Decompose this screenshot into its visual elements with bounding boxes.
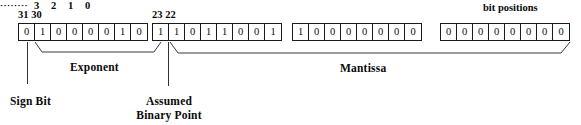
sign-bit-caption: Sign Bit xyxy=(10,94,51,108)
binary-point-caption-line-1: Assumed xyxy=(131,94,207,108)
mantissa-label: Mantissa xyxy=(340,62,386,74)
exponent-label: Exponent xyxy=(70,61,119,73)
binary-point-caption: Assumed Binary Point xyxy=(131,94,207,122)
float-bit-layout-diagram: 31 30 23 22 bit positions ········3210 0… xyxy=(0,0,581,125)
binary-point-caption-line-2: Binary Point xyxy=(131,108,207,122)
